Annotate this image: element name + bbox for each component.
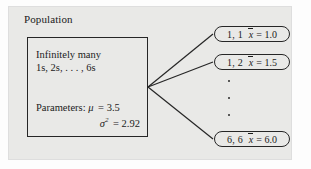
sample-capsule-2: 1, 2 x = 1.5 [214,54,290,70]
sample-pair-1: 1, 1 [227,29,243,40]
sample-mean-1: = 1.0 [256,29,277,40]
mu-value: = 3.5 [98,102,120,113]
parameters-variance-line: σ2 = 2.92 [36,114,140,130]
sample-pair-3: 6, 6 [227,134,243,145]
mu-symbol: μ [88,102,93,113]
population-contents-line-2: 1s, 2s, . . . , 6s [36,61,96,74]
sample-capsule-3: 6, 6 x = 6.0 [214,131,290,147]
ellipsis-dot [228,80,230,82]
xbar-symbol-1: x [248,29,254,40]
ellipsis-dot [228,114,230,116]
parameters-mean-line: Parameters: μ = 3.5 [36,101,120,114]
sample-pair-2: 1, 2 [227,57,243,68]
sigma-value: = 2.92 [113,118,140,129]
population-label: Population [24,13,73,25]
sample-mean-2: = 1.5 [256,57,277,68]
xbar-symbol-3: x [248,134,254,145]
xbar-symbol-2: x [248,57,254,68]
population-contents-line-1: Infinitely many [36,48,101,61]
figure-canvas: Population Infinitely many 1s, 2s, . . .… [0,0,311,169]
sample-capsule-1: 1, 1 x = 1.0 [214,26,290,42]
sigma-exponent: 2 [105,116,109,124]
sample-mean-3: = 6.0 [256,134,277,145]
parameters-label: Parameters: [36,102,86,113]
ellipsis-dot [228,97,230,99]
vertical-ellipsis-icon [224,80,234,116]
